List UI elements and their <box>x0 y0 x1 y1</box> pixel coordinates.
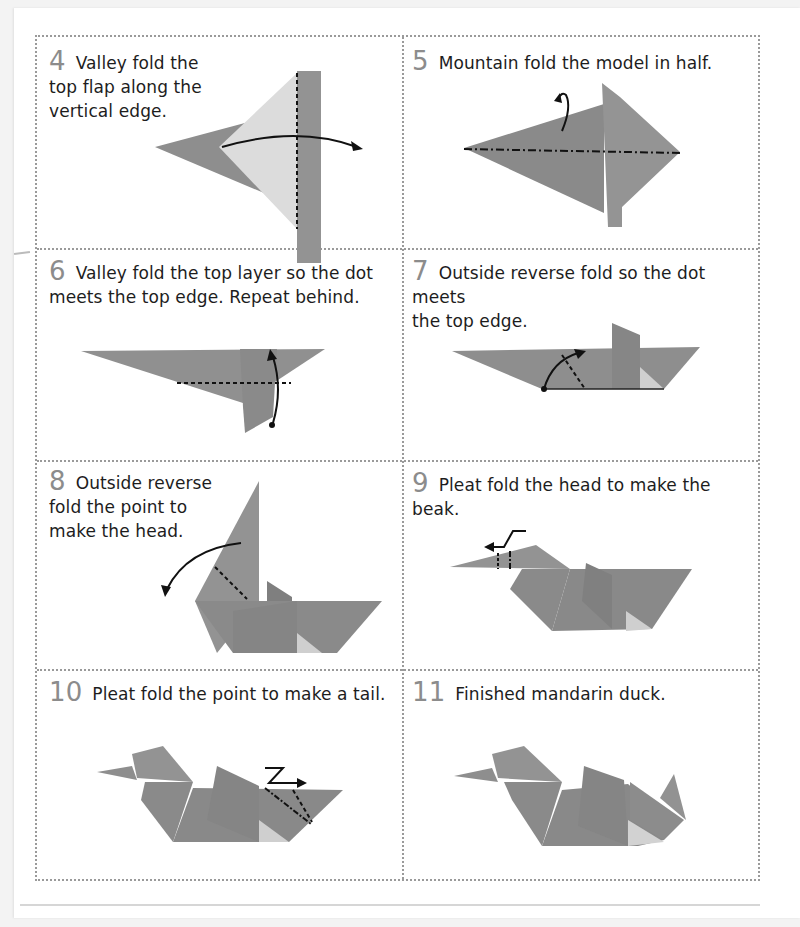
page-bottom-edge <box>20 904 760 906</box>
tail-pleat-diagram <box>37 670 400 881</box>
arrow-head-icon <box>297 778 307 788</box>
step-panel-6: 6Valley fold the top layer so the dot me… <box>37 249 400 460</box>
pleat-symbol-icon <box>492 531 526 547</box>
step-panel-8: 8Outside reverse fold the point to make … <box>37 461 400 669</box>
beak-pleat-diagram <box>402 461 760 669</box>
valley-fold-flap-diagram <box>37 37 400 248</box>
dot-marker <box>269 422 275 428</box>
step-panel-7: 7Outside reverse fold so the dot meets t… <box>402 249 760 460</box>
arrow-head-icon <box>351 141 363 151</box>
mountain-fold-half-diagram <box>402 37 760 248</box>
finished-duck-diagram <box>402 670 760 881</box>
head-fold-diagram <box>37 461 400 669</box>
step-panel-9: 9Pleat fold the head to make the beak. <box>402 461 760 669</box>
outside-reverse-fold-diagram <box>402 249 760 460</box>
step-panel-4: 4Valley fold the top flap along the vert… <box>37 37 400 248</box>
pleat-symbol-icon <box>265 768 297 783</box>
arrow-head-icon <box>484 542 494 552</box>
step-panel-5: 5Mountain fold the model in half. <box>402 37 760 248</box>
valley-fold-top-layer-diagram <box>37 249 400 460</box>
arrow-head-icon <box>161 585 171 597</box>
dot-marker <box>541 386 547 392</box>
page-edge-mark <box>14 251 30 255</box>
step-panel-11: 11Finished mandarin duck. <box>402 670 760 881</box>
step-panel-10: 10Pleat fold the point to make a tail. <box>37 670 400 881</box>
